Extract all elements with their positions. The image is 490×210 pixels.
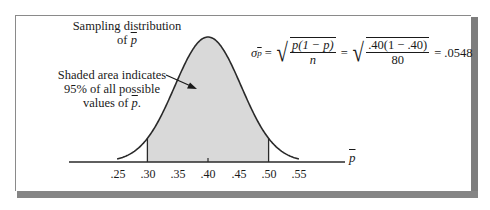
figure: Sampling distribution of p Shaded area i… [0, 0, 490, 210]
period: . [138, 96, 141, 110]
sqrt-numeric: √ .40(1 − .40) 80 [351, 39, 431, 67]
distribution-label-line1: Sampling distribution [72, 19, 182, 33]
x-axis-label: p [349, 151, 356, 165]
annotation-line1: Shaded area indicates [57, 68, 167, 82]
numerator-general: p(1 − p) [290, 38, 336, 53]
numerator-numeric: .40(1 − .40) [366, 38, 429, 53]
sigma-subscript: p [257, 48, 262, 58]
of-text: of [117, 33, 131, 47]
sqrt-general: √ p(1 − p) n [275, 39, 338, 67]
x-tick-label: .30 [141, 167, 156, 182]
radical-icon: √ [276, 40, 287, 66]
equals-sign: = [434, 46, 441, 61]
p-bar-symbol: p [131, 33, 137, 47]
fraction-numeric: .40(1 − .40) 80 [366, 37, 429, 67]
radical-icon: √ [352, 40, 363, 66]
annotation-line3: values of p. [57, 96, 167, 110]
equals-sign: = [341, 46, 348, 61]
x-tick-label: .45 [232, 167, 247, 182]
standard-error-formula: σp = √ p(1 − p) n = √ .40(1 − .40) 80 = … [251, 39, 472, 67]
x-tick-label: .50 [262, 167, 277, 182]
denominator-numeric: 80 [391, 53, 404, 67]
fraction-general: p(1 − p) n [290, 37, 336, 67]
distribution-label: Sampling distribution of p [72, 19, 182, 47]
distribution-label-line2: of p [72, 33, 182, 47]
x-tick-label: .55 [292, 167, 307, 182]
x-tick-label: .35 [171, 167, 186, 182]
annotation-line2: 95% of all possible [57, 82, 167, 96]
values-of-text: values of [83, 96, 132, 110]
equals-sign: = [265, 46, 272, 61]
x-tick-label: .25 [111, 167, 126, 182]
standard-error-result: .0548 [444, 46, 472, 61]
x-tick-label: .40 [201, 167, 216, 182]
shaded-area-annotation: Shaded area indicates 95% of all possibl… [57, 68, 167, 110]
denominator-general: n [310, 53, 316, 67]
